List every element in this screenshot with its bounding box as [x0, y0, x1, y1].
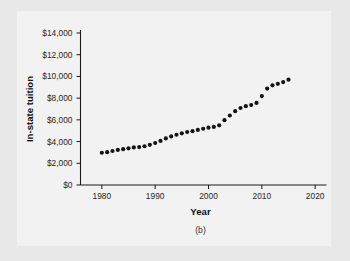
- data-point: [212, 125, 216, 129]
- data-point: [190, 129, 194, 133]
- tuition-scatter-chart: $0$2,000$4,000$6,000$8,000$10,000$12,000…: [0, 0, 350, 261]
- figure-root: $0$2,000$4,000$6,000$8,000$10,000$12,000…: [0, 0, 350, 261]
- data-point: [121, 147, 125, 151]
- x-axis-ticks: 19801990200020102020: [93, 185, 325, 201]
- data-point: [116, 148, 120, 152]
- data-point: [158, 139, 162, 143]
- data-point: [276, 82, 280, 86]
- data-point: [137, 145, 141, 149]
- data-point: [217, 123, 221, 127]
- x-tick-label: 1980: [93, 191, 112, 201]
- data-point: [228, 113, 232, 117]
- data-point: [260, 94, 264, 98]
- data-point: [105, 150, 109, 154]
- data-point: [244, 104, 248, 108]
- x-axis-title: Year: [190, 206, 211, 217]
- data-point: [233, 109, 237, 113]
- data-point: [164, 136, 168, 140]
- data-point: [185, 130, 189, 134]
- data-point: [132, 145, 136, 149]
- y-axis-title: In-state tuition: [24, 76, 35, 142]
- data-point: [196, 128, 200, 132]
- y-tick-label: $0: [63, 180, 73, 190]
- y-tick-label: $6,000: [47, 115, 73, 125]
- y-tick-label: $4,000: [47, 137, 73, 147]
- y-tick-label: $2,000: [47, 158, 73, 168]
- data-point: [286, 78, 290, 82]
- y-tick-label: $12,000: [42, 50, 73, 60]
- y-tick-label: $8,000: [47, 93, 73, 103]
- data-point: [142, 144, 146, 148]
- data-point: [249, 103, 253, 107]
- data-point: [238, 106, 242, 110]
- data-point: [281, 80, 285, 84]
- y-axis-ticks: $0$2,000$4,000$6,000$8,000$10,000$12,000…: [42, 28, 80, 190]
- data-point: [110, 149, 114, 153]
- data-point: [270, 83, 274, 87]
- data-point-series: [100, 78, 291, 155]
- data-point: [169, 134, 173, 138]
- data-point: [222, 118, 226, 122]
- x-tick-label: 2000: [199, 191, 218, 201]
- data-point: [148, 143, 152, 147]
- plot-area: $0$2,000$4,000$6,000$8,000$10,000$12,000…: [0, 0, 350, 261]
- figure-caption: (b): [195, 225, 206, 235]
- data-point: [126, 146, 130, 150]
- data-point: [180, 131, 184, 135]
- data-point: [254, 101, 258, 105]
- data-point: [201, 127, 205, 131]
- data-point: [206, 126, 210, 130]
- x-tick-label: 1990: [146, 191, 165, 201]
- y-tick-label: $14,000: [42, 28, 73, 38]
- data-point: [100, 151, 104, 155]
- data-point: [265, 86, 269, 90]
- x-tick-label: 2010: [253, 191, 272, 201]
- data-point: [153, 141, 157, 145]
- x-tick-label: 2020: [306, 191, 325, 201]
- data-point: [174, 133, 178, 137]
- y-tick-label: $10,000: [42, 71, 73, 81]
